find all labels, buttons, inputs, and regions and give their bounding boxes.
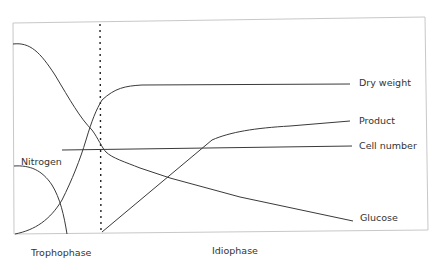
label-idiophase: Idiophase xyxy=(212,246,258,256)
label-trophophase: Trophophase xyxy=(31,248,91,258)
glucose-curve xyxy=(13,44,353,221)
label-cell-number: Cell number xyxy=(359,141,417,151)
growth-phase-chart xyxy=(0,0,443,270)
label-dry-weight: Dry weight xyxy=(359,78,411,88)
label-glucose: Glucose xyxy=(360,213,398,223)
label-nitrogen: Nitrogen xyxy=(21,157,62,167)
product-curve xyxy=(102,121,350,232)
label-product: Product xyxy=(359,116,395,126)
dry-weight-curve xyxy=(15,84,350,234)
cell-number-line xyxy=(62,146,352,150)
phase-divider xyxy=(100,24,101,232)
